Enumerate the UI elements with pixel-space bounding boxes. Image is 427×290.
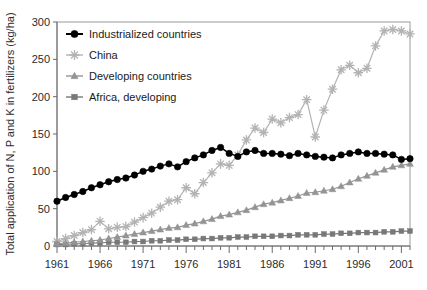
data-point-plus	[276, 118, 286, 128]
data-point-plus	[242, 135, 252, 145]
data-point-plus	[293, 110, 303, 120]
data-point-plus	[69, 50, 79, 60]
data-point-plus	[379, 26, 389, 36]
data-point-plus	[147, 208, 157, 218]
data-point-circle	[149, 166, 155, 172]
data-point-circle	[235, 153, 241, 159]
data-point-plus	[138, 213, 148, 223]
data-point-square	[115, 240, 120, 245]
data-point-circle	[303, 152, 309, 158]
x-tick-label: 1996	[346, 258, 370, 270]
data-point-square	[244, 235, 249, 240]
legend-item-label: Industrialized countries	[89, 28, 202, 40]
data-point-square	[399, 229, 404, 234]
series-line	[57, 147, 410, 201]
data-point-circle	[71, 30, 78, 37]
series-industrialized-countries	[54, 144, 413, 204]
legend-item-1[interactable]: China	[66, 49, 119, 61]
legend-item-3[interactable]: Africa, developing	[66, 91, 176, 103]
data-point-circle	[407, 155, 413, 161]
data-point-circle	[166, 161, 172, 167]
data-point-square	[330, 232, 335, 237]
data-point-square	[218, 235, 223, 240]
chart-canvas: 0501001502002503001961196619711976198119…	[0, 0, 427, 290]
data-point-square	[184, 237, 189, 242]
y-axis-title: Total application of N, P and K in ferti…	[4, 12, 16, 255]
x-tick-label: 1981	[217, 258, 241, 270]
data-point-circle	[398, 156, 404, 162]
data-point-circle	[295, 150, 301, 156]
data-point-plus	[328, 84, 338, 94]
data-point-circle	[381, 151, 387, 157]
data-point-circle	[390, 152, 396, 158]
data-point-square	[339, 231, 344, 236]
fertilizer-application-chart: 0501001502002503001961196619711976198119…	[0, 0, 427, 290]
x-tick-label: 1986	[260, 258, 284, 270]
data-point-plus	[371, 41, 381, 51]
data-point-plus	[113, 223, 123, 233]
y-tick-label: 0	[44, 240, 50, 252]
data-point-square	[149, 238, 154, 243]
data-point-square	[347, 231, 352, 236]
data-point-square	[287, 233, 292, 238]
data-point-circle	[338, 152, 344, 158]
legend-item-label: China	[89, 49, 119, 61]
data-point-plus	[164, 196, 174, 206]
data-point-plus	[250, 123, 260, 133]
data-point-plus	[78, 228, 88, 238]
data-point-plus	[267, 114, 277, 124]
legend-item-2[interactable]: Developing countries	[66, 70, 192, 82]
data-point-circle	[123, 175, 129, 181]
data-point-circle	[243, 149, 249, 155]
data-point-plus	[388, 25, 398, 35]
data-point-square	[321, 232, 326, 237]
data-point-circle	[80, 188, 86, 194]
x-tick-label: 2001	[389, 258, 413, 270]
data-point-square	[261, 234, 266, 239]
legend-item-0[interactable]: Industrialized countries	[66, 28, 202, 40]
data-point-square	[175, 238, 180, 243]
data-point-circle	[200, 152, 206, 158]
data-point-circle	[88, 185, 94, 191]
data-point-circle	[54, 198, 60, 204]
data-point-circle	[364, 150, 370, 156]
data-point-circle	[209, 147, 215, 153]
data-point-circle	[217, 144, 223, 150]
data-point-plus	[405, 29, 415, 39]
legend-item-label: Developing countries	[89, 70, 192, 82]
y-tick-label: 200	[32, 91, 50, 103]
x-tick-label: 1971	[131, 258, 155, 270]
data-point-circle	[157, 163, 163, 169]
data-point-circle	[312, 153, 318, 159]
data-point-circle	[192, 155, 198, 161]
data-point-plus	[181, 183, 191, 193]
data-point-square	[408, 229, 413, 234]
data-point-square	[141, 239, 146, 244]
data-point-plus	[156, 202, 166, 212]
data-point-circle	[183, 158, 189, 164]
data-point-plus	[397, 26, 407, 36]
data-point-plus	[311, 132, 321, 142]
data-point-plus	[130, 217, 140, 227]
data-point-circle	[97, 182, 103, 188]
data-point-circle	[62, 194, 68, 200]
data-point-circle	[174, 164, 180, 170]
data-point-plus	[285, 113, 295, 123]
data-point-square	[192, 237, 197, 242]
y-tick-label: 250	[32, 53, 50, 65]
data-point-circle	[321, 154, 327, 160]
data-point-square	[373, 230, 378, 235]
data-point-plus	[121, 222, 131, 232]
y-tick-label: 150	[32, 128, 50, 140]
x-tick-label: 1991	[303, 258, 327, 270]
series-line	[57, 29, 410, 241]
data-point-square	[382, 229, 387, 234]
data-point-circle	[260, 150, 266, 156]
data-point-circle	[252, 147, 258, 153]
x-tick-label: 1961	[45, 258, 69, 270]
y-tick-label: 300	[32, 16, 50, 28]
data-point-circle	[355, 149, 361, 155]
data-point-circle	[71, 191, 77, 197]
data-point-circle	[286, 152, 292, 158]
data-point-square	[356, 230, 361, 235]
